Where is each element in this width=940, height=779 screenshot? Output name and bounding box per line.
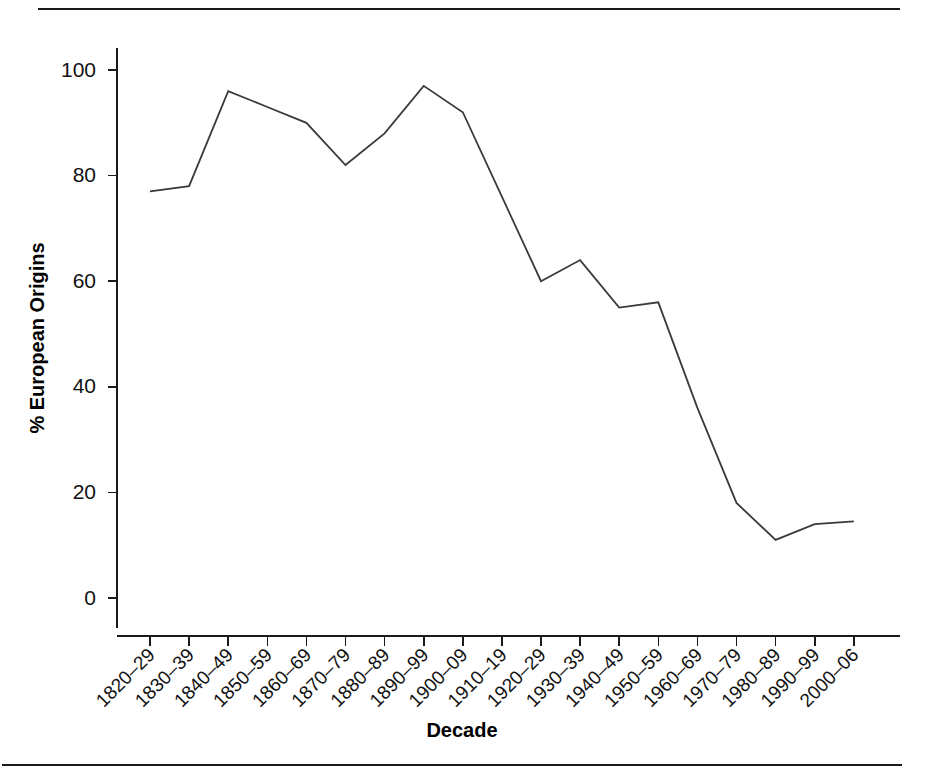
x-axis-ticks bbox=[150, 636, 854, 646]
y-axis-tick-label: 0 bbox=[84, 586, 96, 609]
data-series-european-origins bbox=[150, 86, 854, 540]
y-axis-tick-label: 100 bbox=[61, 58, 96, 81]
line-chart: 020406080100 1820–291830–391840–491850–5… bbox=[0, 0, 940, 779]
y-axis-tick-labels: 020406080100 bbox=[61, 58, 96, 609]
y-axis: 020406080100 bbox=[61, 48, 117, 628]
figure-container: 020406080100 1820–291830–391840–491850–5… bbox=[0, 0, 940, 779]
y-axis-tick-label: 20 bbox=[73, 480, 96, 503]
x-axis-label: Decade bbox=[426, 719, 497, 741]
y-axis-ticks bbox=[108, 70, 117, 598]
y-axis-tick-label: 40 bbox=[73, 374, 96, 397]
x-axis-tick-labels: 1820–291830–391840–491850–591860–691870–… bbox=[92, 644, 863, 711]
plot-area: 020406080100 1820–291830–391840–491850–5… bbox=[0, 0, 940, 779]
y-axis-label: % European Origins bbox=[26, 242, 48, 433]
y-axis-tick-label: 80 bbox=[73, 163, 96, 186]
x-axis: 1820–291830–391840–491850–591860–691870–… bbox=[92, 636, 900, 711]
y-axis-tick-label: 60 bbox=[73, 269, 96, 292]
